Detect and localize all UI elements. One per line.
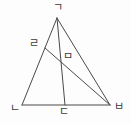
vertex-label-bottom-right-vertex: ㅂ <box>114 100 124 113</box>
figure-canvas: ㄱㄹㅁㄴㄷㅂ <box>0 0 131 123</box>
vertex-label-intersection-point: ㅁ <box>63 50 73 63</box>
vertex-label-point-on-base: ㄷ <box>59 105 69 118</box>
vertex-label-point-on-left-side: ㄹ <box>29 37 39 50</box>
vertex-label-apex-vertex: ㄱ <box>53 1 63 14</box>
geometry-figure: ㄱㄹㅁㄴㄷㅂ <box>0 0 131 123</box>
vertex-label-bottom-left-vertex: ㄴ <box>10 102 20 115</box>
